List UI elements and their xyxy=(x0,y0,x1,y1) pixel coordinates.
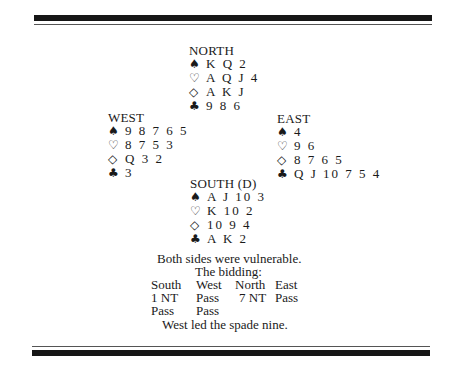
diamond-icon: ◇ xyxy=(189,86,206,99)
suit-row-clubs: ♣3 xyxy=(108,166,189,180)
opening-lead-text: West led the spade nine. xyxy=(162,318,288,331)
heart-icon: ♡ xyxy=(189,72,206,85)
bid-cell: Pass xyxy=(151,304,174,317)
club-icon: ♣ xyxy=(190,233,207,246)
bidding-table: South West North East 1 NT Pass 7 NT Pas… xyxy=(151,278,331,318)
bottom-border-thin xyxy=(32,346,430,347)
hand-south: SOUTH (D) ♠A J 10 3 ♡K 10 2 ◇10 9 4 ♣A K… xyxy=(190,177,266,246)
diamond-icon: ◇ xyxy=(108,153,125,166)
hand-east: EAST ♠4 ♡9 6 ◇8 7 6 5 ♣Q J 10 7 5 4 xyxy=(277,112,381,181)
bottom-border-thick xyxy=(32,350,430,356)
top-border-thick xyxy=(34,15,432,21)
bid-cell: Pass xyxy=(196,304,219,317)
hand-north: NORTH ♠K Q 2 ♡A Q J 4 ◇A K J ♣9 8 6 xyxy=(189,44,259,113)
suit-row-hearts: ♡8 7 5 3 xyxy=(108,138,189,152)
suit-row-clubs: ♣A K 2 xyxy=(190,232,266,246)
suit-row-diamonds: ◇A K J xyxy=(189,85,259,99)
heart-icon: ♡ xyxy=(190,205,207,218)
suit-row-spades: ♠4 xyxy=(277,125,381,139)
diamond-icon: ◇ xyxy=(190,219,207,232)
spade-icon: ♠ xyxy=(277,126,294,139)
bid-cell: 7 NT xyxy=(239,291,266,304)
spade-icon: ♠ xyxy=(190,191,207,204)
heart-icon: ♡ xyxy=(108,139,125,152)
suit-row-hearts: ♡K 10 2 xyxy=(190,204,266,218)
suit-row-spades: ♠K Q 2 xyxy=(189,57,259,71)
club-icon: ♣ xyxy=(277,168,294,181)
diamond-icon: ◇ xyxy=(277,154,294,167)
hand-west: WEST ♠9 8 7 6 5 ♡8 7 5 3 ◇Q 3 2 ♣3 xyxy=(108,111,189,180)
suit-row-diamonds: ◇10 9 4 xyxy=(190,218,266,232)
suit-row-clubs: ♣9 8 6 xyxy=(189,99,259,113)
spade-icon: ♠ xyxy=(189,58,206,71)
bid-cell: Pass xyxy=(275,291,298,304)
suit-row-spades: ♠A J 10 3 xyxy=(190,190,266,204)
club-icon: ♣ xyxy=(189,100,206,113)
suit-row-hearts: ♡9 6 xyxy=(277,139,381,153)
top-border-thin xyxy=(34,24,432,25)
suit-row-clubs: ♣Q J 10 7 5 4 xyxy=(277,167,381,181)
suit-row-diamonds: ◇Q 3 2 xyxy=(108,152,189,166)
suit-row-diamonds: ◇8 7 6 5 xyxy=(277,153,381,167)
spade-icon: ♠ xyxy=(108,125,125,138)
heart-icon: ♡ xyxy=(277,140,294,153)
hand-title: EAST xyxy=(277,112,381,125)
club-icon: ♣ xyxy=(108,167,125,180)
suit-row-spades: ♠9 8 7 6 5 xyxy=(108,124,189,138)
suit-row-hearts: ♡A Q J 4 xyxy=(189,71,259,85)
